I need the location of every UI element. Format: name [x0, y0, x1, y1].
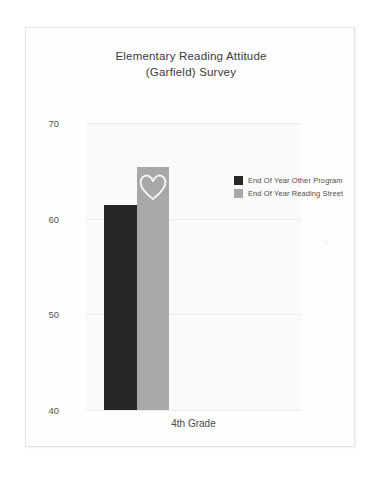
gridline-40 [86, 410, 301, 411]
gridline-70 [86, 123, 301, 124]
legend-item-reading-street: End Of Year Reading Street [234, 189, 354, 198]
xtick-label-4th-grade: 4th Grade [86, 418, 301, 429]
legend-swatch-reading-street [234, 189, 243, 198]
legend-label-other-program: End Of Year Other Program [248, 176, 343, 185]
scanned-page: Elementary Reading Attitude (Garfield) S… [25, 27, 355, 447]
ytick-label-60: 60 [19, 213, 59, 224]
chart-figure: Elementary Reading Attitude (Garfield) S… [26, 28, 356, 448]
ytick-label-70: 70 [19, 118, 59, 129]
ytick-label-50: 50 [19, 309, 59, 320]
chart-title: Elementary Reading Attitude (Garfield) S… [26, 48, 356, 80]
legend-label-reading-street: End Of Year Reading Street [248, 189, 343, 198]
chart-legend: End Of Year Other Program End Of Year Re… [234, 176, 354, 202]
legend-swatch-other-program [234, 176, 243, 185]
legend-item-other-program: End Of Year Other Program [234, 176, 354, 185]
ytick-label-40: 40 [19, 405, 59, 416]
bar-end-of-year-other-program [104, 205, 137, 410]
bar-end-of-year-reading-street [137, 167, 169, 410]
plot-area [86, 123, 301, 410]
